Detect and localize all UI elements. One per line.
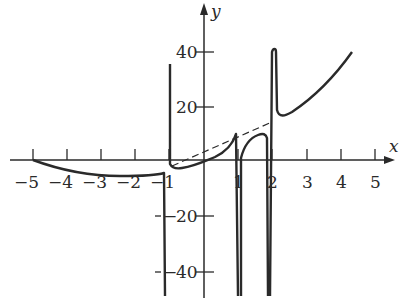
svg-text:40: 40 [176,262,198,282]
svg-text:20: 20 [176,206,198,226]
y-axis-label: y [210,1,221,21]
x-axis-arrow-icon [384,156,395,164]
chart-canvas: x y −5 −4 −3 −2 −1 1 2 3 4 5 40 [0,0,400,305]
x-tick-labels: −5 −4 −3 −2 −1 1 2 3 4 5 [14,172,381,192]
svg-text:3: 3 [302,172,313,192]
svg-text:40: 40 [176,42,198,62]
svg-text:1: 1 [233,172,244,192]
svg-text:4: 4 [336,172,347,192]
x-axis-label: x [389,136,399,156]
svg-text:2: 2 [267,172,278,192]
svg-text:5: 5 [370,172,381,192]
y-axis-arrow-icon [200,3,208,15]
svg-text:−5: −5 [14,172,39,192]
y-tick-labels: 40 20 − 20 − 40 [163,42,198,282]
svg-text:20: 20 [176,97,198,117]
svg-text:−4: −4 [48,172,73,192]
